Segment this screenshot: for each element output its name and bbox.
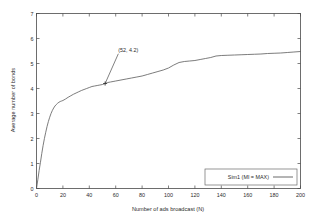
x-tick-label: 100 — [164, 192, 173, 198]
x-tick-label: 180 — [270, 192, 279, 198]
x-tick-label: 20 — [60, 192, 66, 198]
y-axis-ticks — [37, 14, 301, 189]
y-tick-label: 7 — [31, 11, 34, 17]
x-tick-label: 120 — [190, 192, 199, 198]
line-chart: 020406080100120140160180200 01234567 (52… — [0, 0, 317, 220]
y-tick-label: 5 — [31, 61, 34, 67]
x-tick-label: 40 — [86, 192, 92, 198]
y-tick-label: 1 — [31, 161, 34, 167]
plot-frame — [37, 14, 301, 189]
chart-container: 020406080100120140160180200 01234567 (52… — [0, 0, 317, 220]
y-tick-label: 4 — [31, 86, 34, 92]
y-axis-tick-labels: 01234567 — [31, 11, 34, 192]
x-tick-label: 60 — [113, 192, 119, 198]
x-tick-label: 0 — [35, 192, 38, 198]
x-axis-title: Number of ads broadcast (N) — [132, 206, 204, 212]
y-tick-label: 3 — [31, 111, 34, 117]
x-axis-ticks — [37, 14, 301, 189]
legend-entry-label: Sim1 (MI = MAX) — [228, 174, 269, 180]
y-tick-label: 2 — [31, 136, 34, 142]
annotation-leader-line — [105, 54, 118, 84]
series-line — [37, 52, 301, 189]
x-tick-label: 200 — [296, 192, 305, 198]
x-tick-label: 80 — [139, 192, 145, 198]
x-tick-label: 160 — [243, 192, 252, 198]
x-tick-label: 140 — [217, 192, 226, 198]
annotation-label: (52, 4.2) — [118, 47, 138, 53]
x-axis-tick-labels: 020406080100120140160180200 — [35, 192, 305, 198]
data-series-group — [37, 52, 301, 189]
y-tick-label: 6 — [31, 36, 34, 42]
y-axis-title: Average number of bonds — [10, 68, 16, 132]
chart-legend: Sim1 (MI = MAX) — [205, 169, 297, 185]
y-tick-label: 0 — [31, 186, 34, 192]
